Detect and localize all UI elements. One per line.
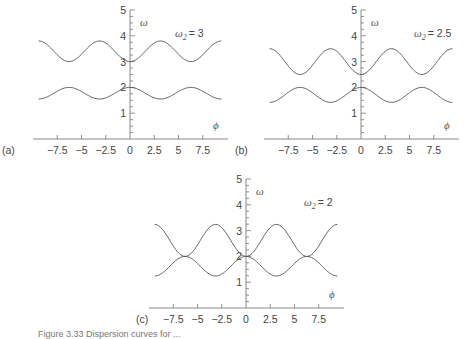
y-tick-labels: 12345 — [351, 4, 357, 119]
x-tick-label: 5 — [176, 144, 182, 156]
y-tick-label: 1 — [236, 276, 242, 288]
x-tick-label: −5 — [76, 144, 88, 156]
x-tick-label: 5 — [407, 144, 413, 156]
x-tick-label: 0 — [358, 144, 364, 156]
y-tick-label: 5 — [351, 4, 357, 16]
x-tick-label: 7.5 — [311, 313, 326, 325]
y-axis-label: ω — [256, 185, 264, 197]
x-tick-label: −2.5 — [211, 313, 232, 325]
panel-c: −7.5−5−2.502.557.5 12345 ω ϕ ω2= 2 (c) — [136, 173, 344, 325]
omega2-annotation: ω2= 2.5 — [414, 27, 452, 42]
x-tick-label: 5 — [292, 313, 298, 325]
y-tick-label: 1 — [120, 107, 126, 119]
y-tick-label: 1 — [351, 107, 357, 119]
omega2-annotation: ω2= 3 — [175, 27, 204, 42]
x-tick-label: 2.5 — [147, 144, 162, 156]
y-tick-label: 5 — [120, 4, 126, 16]
x-tick-label: 2.5 — [378, 144, 393, 156]
x-tick-label: −7.5 — [163, 313, 184, 325]
y-tick-labels: 12345 — [236, 173, 242, 288]
x-tick-label: 7.5 — [426, 144, 441, 156]
y-tick-label: 5 — [236, 173, 242, 185]
x-tick-label: 2.5 — [263, 313, 278, 325]
x-tick-label: 0 — [127, 144, 133, 156]
x-tick-labels: −7.5−5−2.502.557.5 — [47, 135, 210, 156]
y-axis-label: ω — [371, 16, 379, 28]
x-tick-labels: −7.5−5−2.502.557.5 — [278, 135, 441, 156]
y-tick-label: 3 — [236, 225, 242, 237]
panel-b: −7.5−5−2.502.557.5 12345 ω ϕ ω2= 2.5 (b) — [235, 4, 459, 156]
x-tick-label: 0 — [243, 313, 249, 325]
y-tick-label: 4 — [236, 199, 242, 211]
x-axis-label: ϕ — [444, 119, 450, 131]
x-tick-label: −5 — [192, 313, 204, 325]
y-tick-label: 3 — [351, 56, 357, 68]
x-tick-label: −2.5 — [326, 144, 347, 156]
y-axis-label: ω — [140, 16, 148, 28]
y-tick-label: 4 — [120, 30, 126, 42]
y-tick-label: 4 — [351, 30, 357, 42]
panel-label: (a) — [2, 144, 15, 156]
x-tick-label: −7.5 — [47, 144, 68, 156]
y-tick-labels: 12345 — [120, 4, 126, 119]
y-minor-ticks — [246, 179, 251, 302]
omega2-annotation: ω2= 2 — [304, 196, 333, 211]
x-tick-label: −2.5 — [95, 144, 116, 156]
panel-label: (b) — [235, 144, 248, 156]
x-tick-labels: −7.5−5−2.502.557.5 — [163, 304, 326, 325]
y-tick-label: 2 — [351, 81, 357, 93]
panel-a: −7.5−5−2.502.557.5 12345 ω ϕ ω2= 3 (a) — [2, 4, 228, 156]
x-tick-label: 7.5 — [195, 144, 210, 156]
figure-caption: Figure 3.33 Dispersion curves for ... — [38, 329, 181, 339]
x-axis-label: ϕ — [213, 119, 219, 131]
x-tick-label: −5 — [307, 144, 319, 156]
x-tick-label: −7.5 — [278, 144, 299, 156]
y-minor-ticks — [130, 10, 135, 133]
panel-label: (c) — [136, 313, 148, 325]
x-axis-label: ϕ — [329, 288, 335, 300]
y-minor-ticks — [361, 10, 366, 133]
y-tick-label: 2 — [120, 81, 126, 93]
